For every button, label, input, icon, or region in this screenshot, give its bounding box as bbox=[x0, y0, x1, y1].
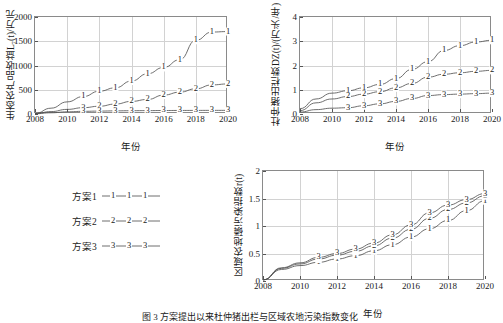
data-point-marker: 3 bbox=[427, 207, 433, 217]
data-point-marker: 2 bbox=[161, 89, 167, 99]
svg-text:3: 3 bbox=[426, 90, 430, 100]
legend-item: 方案2222 bbox=[72, 215, 160, 227]
svg-text:2: 2 bbox=[210, 79, 214, 89]
data-point-marker: 2 bbox=[489, 64, 495, 74]
data-point-marker: 1 bbox=[209, 26, 215, 36]
svg-text:3: 3 bbox=[483, 188, 487, 198]
svg-text:3: 3 bbox=[474, 88, 478, 98]
x-axis-label: 年份 bbox=[385, 139, 405, 153]
data-point-marker: 1 bbox=[425, 56, 431, 66]
data-point-marker: 3 bbox=[361, 100, 367, 110]
data-point-marker: 2 bbox=[145, 93, 151, 103]
svg-text:3: 3 bbox=[410, 92, 414, 102]
data-point-marker: 1 bbox=[427, 223, 433, 233]
y-tick-label: 1 bbox=[293, 85, 298, 94]
svg-text:3: 3 bbox=[442, 89, 446, 99]
legend-item: 方案1111 bbox=[72, 190, 160, 202]
svg-text:3: 3 bbox=[390, 229, 394, 239]
data-point-marker: 3 bbox=[193, 104, 199, 114]
data-point-marker: 3 bbox=[225, 104, 231, 114]
data-point-marker: 1 bbox=[96, 85, 102, 95]
svg-text:3: 3 bbox=[335, 247, 339, 257]
data-point-marker: 3 bbox=[80, 105, 86, 115]
legend-item-sample: 111 bbox=[102, 190, 160, 202]
svg-text:3: 3 bbox=[446, 199, 450, 209]
data-point-marker: 1 bbox=[112, 82, 118, 92]
data-point-marker: 1 bbox=[225, 26, 231, 36]
x-tick-label: 2010 bbox=[323, 115, 341, 124]
x-tick-label: 2010 bbox=[58, 115, 76, 124]
y-tick-label: 0 bbox=[256, 277, 261, 286]
data-point-marker: 3 bbox=[489, 87, 495, 97]
x-tick-label: 2016 bbox=[155, 115, 173, 124]
data-point-marker: 2 bbox=[377, 86, 383, 96]
svg-text:3: 3 bbox=[143, 240, 147, 250]
legend-item-label: 方案2 bbox=[72, 214, 97, 228]
svg-text:2: 2 bbox=[378, 86, 382, 96]
svg-text:3: 3 bbox=[226, 104, 230, 114]
data-point-marker: 1 bbox=[445, 214, 451, 224]
svg-text:1: 1 bbox=[81, 90, 85, 100]
data-point-marker: 1 bbox=[457, 40, 463, 50]
svg-text:3: 3 bbox=[490, 87, 494, 97]
data-point-marker: 3 bbox=[425, 90, 431, 100]
svg-text:2: 2 bbox=[127, 215, 131, 225]
figure-legend: 方案1111方案2222方案3333 bbox=[72, 190, 182, 256]
svg-text:3: 3 bbox=[210, 104, 214, 114]
legend-item-sample: 222 bbox=[102, 215, 160, 227]
svg-text:3: 3 bbox=[353, 243, 357, 253]
data-point-marker: 2 bbox=[193, 83, 199, 93]
data-point-marker: 3 bbox=[409, 92, 415, 102]
data-point-marker: 1 bbox=[161, 61, 167, 71]
plot-area: 2008201020122014201620182020012341111111… bbox=[299, 16, 491, 113]
data-point-marker: 3 bbox=[457, 88, 463, 98]
svg-text:1: 1 bbox=[111, 190, 115, 200]
data-point-marker: 3 bbox=[112, 105, 118, 115]
svg-text:3: 3 bbox=[427, 207, 431, 217]
svg-text:3: 3 bbox=[378, 98, 382, 108]
svg-text:2: 2 bbox=[194, 83, 198, 93]
y-tick-label: 2 bbox=[256, 167, 261, 176]
svg-text:1: 1 bbox=[210, 26, 214, 36]
y-tick-label: 500 bbox=[19, 85, 33, 94]
svg-text:2: 2 bbox=[178, 86, 182, 96]
x-tick-label: 2018 bbox=[439, 282, 457, 291]
data-point-marker: 2 bbox=[409, 77, 415, 87]
svg-text:1: 1 bbox=[226, 26, 230, 36]
y-tick-label: 1 bbox=[256, 222, 261, 231]
y-tick-label: 1.5 bbox=[249, 194, 260, 203]
x-tickmark bbox=[492, 109, 493, 112]
data-point-marker: 3 bbox=[371, 237, 377, 247]
data-point-marker: 1 bbox=[145, 68, 151, 78]
data-point-marker: 1 bbox=[80, 90, 86, 100]
data-point-marker: 1 bbox=[489, 34, 495, 44]
x-tick-label: 2020 bbox=[476, 282, 494, 291]
y-tick-label: 0.5 bbox=[249, 249, 260, 258]
svg-text:1: 1 bbox=[143, 190, 147, 200]
svg-text:2: 2 bbox=[458, 67, 462, 77]
svg-text:2: 2 bbox=[145, 93, 149, 103]
svg-text:3: 3 bbox=[81, 105, 85, 115]
x-tick-label: 2014 bbox=[365, 282, 383, 291]
x-tick-label: 2020 bbox=[219, 115, 237, 124]
x-tick-label: 2014 bbox=[387, 115, 405, 124]
data-point-marker: 3 bbox=[353, 243, 359, 253]
data-point-marker: 3 bbox=[129, 105, 135, 115]
svg-text:3: 3 bbox=[111, 240, 115, 250]
svg-text:3: 3 bbox=[409, 219, 413, 229]
svg-text:2: 2 bbox=[143, 215, 147, 225]
legend-item-label: 方案1 bbox=[72, 189, 97, 203]
svg-text:1: 1 bbox=[127, 190, 131, 200]
svg-text:1: 1 bbox=[474, 36, 478, 46]
data-point-marker: 3 bbox=[177, 104, 183, 114]
svg-text:2: 2 bbox=[346, 90, 350, 100]
plot-area: 200820102012201420162018202000.511.52111… bbox=[262, 170, 484, 280]
svg-text:3: 3 bbox=[97, 105, 101, 115]
data-point-marker: 2 bbox=[441, 68, 447, 78]
x-tick-label: 2016 bbox=[402, 282, 420, 291]
x-tickmark bbox=[485, 276, 486, 279]
data-point-marker: 1 bbox=[177, 54, 183, 64]
svg-text:2: 2 bbox=[162, 89, 166, 99]
x-axis-label: 年份 bbox=[363, 306, 383, 320]
data-point-marker: 3 bbox=[377, 98, 383, 108]
